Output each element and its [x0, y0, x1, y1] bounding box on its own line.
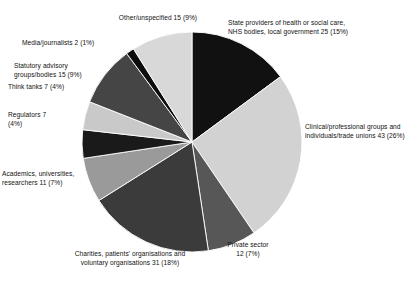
pie-label-other-unspecified: Other/unspecified 15 (9%) [96, 14, 220, 23]
pie-label-media-journalists: Media/journalists 2 (1%) [22, 39, 134, 48]
pie-label-think-tanks: Think tanks 7 (4%) [8, 83, 94, 92]
pie-label-regulators: Regulators 7 (4%) [8, 111, 94, 128]
pie-label-charities: Charities, patients' organisations and v… [48, 250, 212, 267]
pie-label-private-sector: Private sector 12 (7%) [208, 241, 288, 258]
pie-label-clinical-professional: Clinical/professional groups and individ… [305, 123, 418, 140]
pie-label-statutory-advisory: Statutory advisory groups/bodies 15 (9%) [14, 62, 126, 79]
pie-chart: State providers of health or social care… [0, 0, 418, 288]
pie-label-state-providers: State providers of health or social care… [228, 19, 410, 36]
pie-label-academics: Academics, universities, researchers 11 … [2, 170, 110, 187]
